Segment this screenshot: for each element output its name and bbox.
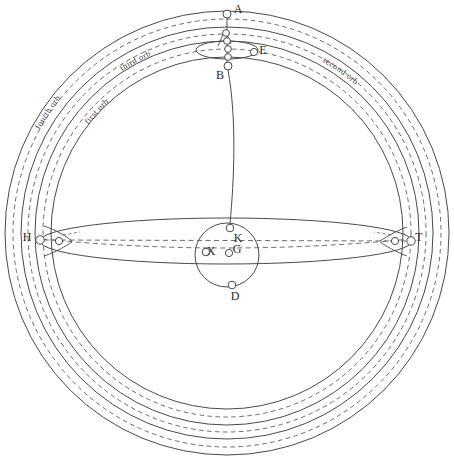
node-chain-1 (223, 30, 230, 37)
node-point-D (228, 281, 236, 289)
point-label-E: E (259, 43, 266, 57)
point-label-D: D (231, 289, 240, 303)
point-labels: AEBKXGDHT (23, 2, 424, 303)
node-point-E (250, 48, 257, 55)
arc-label-fourth-orb: fourth orb (33, 93, 63, 131)
node-node-near-h (55, 237, 62, 244)
concentric-orb-circles (5, 11, 449, 455)
h-dash-stub (63, 232, 80, 235)
node-point-T (407, 237, 415, 245)
point-label-X: X (207, 244, 216, 258)
point-label-H: H (23, 230, 32, 244)
node-node-near-t (391, 237, 398, 244)
point-label-G: G (233, 242, 242, 256)
node-chain-3 (225, 46, 232, 53)
point-label-B: B (216, 68, 224, 82)
arc-label-first-orb: first orb (82, 96, 111, 126)
arc-label-second-orb: second orb (321, 55, 361, 87)
orb-circle-fourth-orb-inner (21, 27, 433, 439)
point-label-A: A (234, 2, 243, 16)
orb-diagram-svg: fourth orbthird orbfirst orbsecond orb A… (0, 0, 454, 469)
node-point-H (36, 236, 44, 244)
orb-dashed-dashed-middle (28, 34, 426, 432)
node-point-A (223, 10, 231, 18)
node-point-K (226, 224, 234, 232)
connector-lines (44, 17, 407, 256)
point-markers (36, 10, 415, 289)
arc-label-third-orb: third orb (118, 48, 152, 73)
orb-dashed-dashed-outer (13, 19, 441, 447)
diagram-canvas: fourth orbthird orbfirst orbsecond orb A… (0, 0, 454, 469)
orb-circle-third-orb-inner (35, 41, 419, 425)
node-point-G (225, 249, 232, 256)
line-h-to-t-axis (44, 240, 407, 241)
node-chain-2 (224, 38, 231, 45)
t-dash-stub (374, 232, 391, 235)
point-label-T: T (415, 230, 423, 244)
line-b-to-k (228, 70, 234, 224)
orb-circle-fourth-orb-outer (5, 11, 449, 455)
equator-ellipse (40, 218, 412, 264)
node-point-B (224, 62, 232, 70)
node-chain-4 (225, 54, 232, 61)
